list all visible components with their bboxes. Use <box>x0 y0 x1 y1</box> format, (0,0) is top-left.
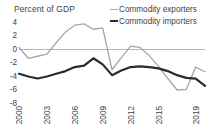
x-tick-label: 2006 <box>70 106 79 124</box>
y-tick-label: 4 <box>2 19 17 27</box>
x-tick-label: 2019 <box>191 106 200 124</box>
x-tick-label: 2015 <box>154 106 163 124</box>
y-tick-label: 0 <box>2 46 17 54</box>
y-tick-label: -4 <box>2 73 17 81</box>
y-tick-label: -6 <box>2 86 17 94</box>
y-tick-label: 2 <box>2 32 17 40</box>
y-tick-label: -2 <box>2 59 17 67</box>
x-tick-label: 2009 <box>98 106 107 124</box>
x-tick-label: 2003 <box>42 106 51 124</box>
x-tick-label: 2012 <box>126 106 135 124</box>
x-tick-label: 2000 <box>15 106 24 124</box>
chart-container: Percent of GDP Commodity exporters Commo… <box>0 0 207 138</box>
series-line-exporters <box>19 24 205 90</box>
series-line-importers <box>19 58 205 86</box>
